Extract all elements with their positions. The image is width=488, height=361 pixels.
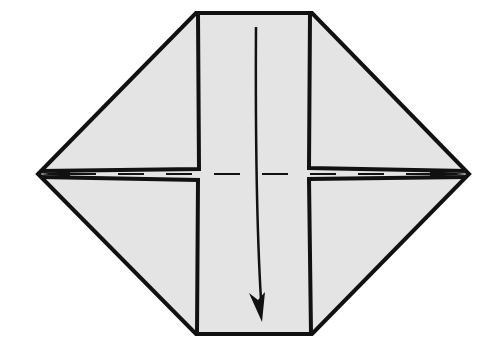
paper-shape: [38, 13, 469, 334]
origami-diagram: [0, 0, 488, 361]
